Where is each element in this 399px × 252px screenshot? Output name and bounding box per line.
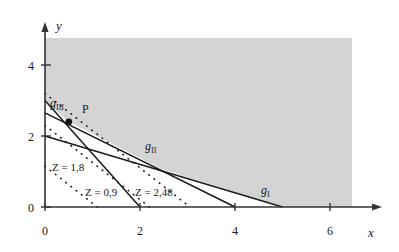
y-tick-label-0: 0 — [28, 201, 34, 215]
y-axis-arrow-icon — [41, 22, 48, 32]
chart-figure: 0 2 4 6 0 2 4 x y gIII gII gI Z = 1,8 Z … — [0, 0, 399, 252]
gI-subscript: I — [267, 190, 270, 199]
x-axis-label: x — [367, 225, 374, 240]
y-tick-label-4: 4 — [28, 59, 34, 73]
plot-svg: 0 2 4 6 0 2 4 x y gIII gII gI Z = 1,8 Z … — [0, 0, 399, 252]
x-tick-label-0: 0 — [42, 224, 48, 238]
x-tick-label-2: 2 — [137, 224, 143, 238]
optimum-point-marker — [65, 118, 72, 125]
y-tick-label-2: 2 — [28, 130, 34, 144]
x-axis-arrow-icon — [372, 203, 382, 210]
x-tick-label-6: 6 — [327, 224, 333, 238]
optimum-point-label: P — [82, 102, 89, 116]
gIII-subscript: III — [56, 103, 64, 112]
x-tick-label-4: 4 — [232, 224, 238, 238]
objective-label-z-248: Z = 2,48 — [135, 186, 173, 198]
gII-subscript: II — [151, 146, 157, 155]
objective-label-z-09: Z = 0,9 — [85, 186, 118, 198]
y-axis-label: y — [54, 18, 62, 33]
objective-label-z-18: Z = 1,8 — [52, 161, 85, 173]
